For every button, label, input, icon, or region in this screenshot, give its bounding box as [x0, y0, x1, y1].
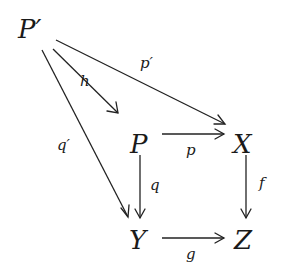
label-p: p	[186, 141, 196, 159]
label-q: q	[150, 176, 160, 194]
arrow-f	[241, 155, 251, 218]
label-p-prime: p′	[140, 54, 154, 72]
arrow-g	[162, 233, 224, 243]
pullback-diagram: P′ P X Y Z h p′ q′ p q f g	[0, 0, 283, 277]
label-h: h	[80, 72, 90, 90]
object-p-prime: P′	[17, 14, 41, 44]
object-p: P	[129, 129, 148, 159]
object-x: X	[231, 129, 253, 159]
arrow-p	[162, 129, 224, 139]
object-y: Y	[129, 225, 149, 255]
object-z: Z	[233, 225, 253, 255]
label-q-prime: q′	[57, 136, 71, 154]
label-g: g	[186, 245, 196, 263]
label-f: f	[258, 174, 267, 192]
arrow-q	[135, 155, 145, 218]
